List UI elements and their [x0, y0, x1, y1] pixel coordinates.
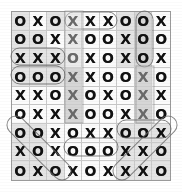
- grid-cell-r6-c5[interactable]: O: [82, 105, 100, 124]
- grid-cell-r5-c2[interactable]: X: [30, 87, 48, 106]
- grid-cell-r5-c9[interactable]: X: [152, 87, 170, 106]
- grid-cell-r6-c2[interactable]: X: [30, 105, 48, 124]
- grid-cell-r2-c1[interactable]: O: [12, 31, 30, 50]
- grid-cell-r4-c7[interactable]: O: [117, 68, 135, 87]
- grid-cell-r3-c5[interactable]: X: [82, 49, 100, 68]
- grid-cell-r6-c7[interactable]: X: [117, 105, 135, 124]
- grid-cell-r1-c6[interactable]: X: [100, 12, 118, 31]
- grid-cell-r7-c6[interactable]: X: [100, 124, 118, 143]
- grid-cell-r3-c7[interactable]: X: [117, 49, 135, 68]
- puzzle-grid-container[interactable]: OXOXXXOOXOOXXOOXOOXXXOXOXOXOOOXXOOXOXXOX…: [11, 11, 171, 181]
- grid-cell-r6-c4[interactable]: X: [65, 105, 83, 124]
- grid-cell-r9-c6[interactable]: X: [100, 161, 118, 180]
- grid-cell-r9-c9[interactable]: O: [152, 161, 170, 180]
- grid-cell-r6-c9[interactable]: O: [152, 105, 170, 124]
- grid-cell-r1-c5[interactable]: X: [82, 12, 100, 31]
- grid-cell-r6-c8[interactable]: X: [135, 105, 153, 124]
- grid-cell-r1-c8[interactable]: O: [135, 12, 153, 31]
- grid-cell-r8-c3[interactable]: X: [47, 143, 65, 162]
- grid-cell-r3-c6[interactable]: O: [100, 49, 118, 68]
- grid-cell-r9-c7[interactable]: X: [117, 161, 135, 180]
- grid-cell-r2-c5[interactable]: O: [82, 31, 100, 50]
- grid-cell-r8-c5[interactable]: O: [82, 143, 100, 162]
- grid-cell-r9-c2[interactable]: X: [30, 161, 48, 180]
- grid-cell-r8-c4[interactable]: O: [65, 143, 83, 162]
- grid-cell-r7-c5[interactable]: X: [82, 124, 100, 143]
- grid-cell-r4-c2[interactable]: O: [30, 68, 48, 87]
- grid-cell-r1-c1[interactable]: O: [12, 12, 30, 31]
- grid-cell-r1-c4[interactable]: X: [65, 12, 83, 31]
- cell-symbol: O: [67, 144, 79, 158]
- grid-cell-r4-c8[interactable]: X: [135, 68, 153, 87]
- grid-cell-r1-c7[interactable]: O: [117, 12, 135, 31]
- grid-cell-r3-c8[interactable]: O: [135, 49, 153, 68]
- grid-cell-r2-c2[interactable]: O: [30, 31, 48, 50]
- grid-cell-r1-c2[interactable]: X: [30, 12, 48, 31]
- grid-cell-r3-c3[interactable]: X: [47, 49, 65, 68]
- grid-cell-r2-c6[interactable]: O: [100, 31, 118, 50]
- grid-cell-r4-c4[interactable]: X: [65, 68, 83, 87]
- grid-cell-r8-c7[interactable]: X: [117, 143, 135, 162]
- grid-cell-r6-c3[interactable]: X: [47, 105, 65, 124]
- grid-cell-r4-c6[interactable]: O: [100, 68, 118, 87]
- grid-cell-r6-c1[interactable]: O: [12, 105, 30, 124]
- grid-cell-r8-c2[interactable]: O: [30, 143, 48, 162]
- grid-cell-r7-c3[interactable]: X: [47, 124, 65, 143]
- grid-cell-r2-c7[interactable]: X: [117, 31, 135, 50]
- cell-symbol: X: [68, 164, 79, 178]
- grid-cell-r9-c1[interactable]: O: [12, 161, 30, 180]
- cell-symbol: X: [50, 32, 61, 46]
- grid-cell-r5-c8[interactable]: X: [135, 87, 153, 106]
- grid-cell-r8-c6[interactable]: O: [100, 143, 118, 162]
- cell-symbol: O: [32, 32, 44, 46]
- grid-cell-r5-c5[interactable]: O: [82, 87, 100, 106]
- cell-symbol: X: [68, 88, 79, 102]
- cell-symbol: O: [137, 32, 149, 46]
- grid-cell-r9-c8[interactable]: X: [135, 161, 153, 180]
- grid-cell-r4-c3[interactable]: O: [47, 68, 65, 87]
- grid-cell-r3-c4[interactable]: O: [65, 49, 83, 68]
- grid-cell-r7-c7[interactable]: O: [117, 124, 135, 143]
- grid-cell-r5-c7[interactable]: O: [117, 87, 135, 106]
- grid-cell-r4-c1[interactable]: O: [12, 68, 30, 87]
- grid-cell-r2-c8[interactable]: O: [135, 31, 153, 50]
- grid-cell-r9-c3[interactable]: O: [47, 161, 65, 180]
- grid-cell-r4-c9[interactable]: O: [152, 68, 170, 87]
- cell-symbol: O: [14, 32, 26, 46]
- grid-cell-r7-c1[interactable]: O: [12, 124, 30, 143]
- grid-cell-r1-c9[interactable]: X: [152, 12, 170, 31]
- cell-symbol: O: [102, 107, 114, 121]
- grid-cell-r5-c3[interactable]: O: [47, 87, 65, 106]
- grid-cell-r2-c3[interactable]: X: [47, 31, 65, 50]
- grid-cell-r2-c9[interactable]: O: [152, 31, 170, 50]
- cell-symbol: X: [50, 107, 61, 121]
- cell-symbol: X: [85, 51, 96, 65]
- cell-symbol: O: [120, 88, 132, 102]
- grid-cell-r4-c5[interactable]: X: [82, 68, 100, 87]
- grid-cell-r3-c9[interactable]: X: [152, 49, 170, 68]
- grid-cell-r8-c8[interactable]: X: [135, 143, 153, 162]
- grid-cell-r3-c2[interactable]: X: [30, 49, 48, 68]
- cell-symbol: O: [85, 88, 97, 102]
- grid-cell-r9-c5[interactable]: O: [82, 161, 100, 180]
- cell-symbol: X: [138, 88, 149, 102]
- grid-cell-r1-c3[interactable]: O: [47, 12, 65, 31]
- grid-cell-r8-c1[interactable]: X: [12, 143, 30, 162]
- cell-symbol: O: [155, 70, 167, 84]
- grid-cell-r5-c4[interactable]: X: [65, 87, 83, 106]
- grid-cell-r8-c9[interactable]: O: [152, 143, 170, 162]
- grid-cell-r3-c1[interactable]: X: [12, 49, 30, 68]
- grid-cell-r6-c6[interactable]: O: [100, 105, 118, 124]
- grid-cell-r5-c6[interactable]: X: [100, 87, 118, 106]
- cell-symbol: O: [14, 126, 26, 140]
- cell-symbol: X: [120, 32, 131, 46]
- grid-cell-r7-c9[interactable]: X: [152, 124, 170, 143]
- grid-cell-r7-c8[interactable]: O: [135, 124, 153, 143]
- grid-cell-r7-c2[interactable]: O: [30, 124, 48, 143]
- grid-cell-r5-c1[interactable]: X: [12, 87, 30, 106]
- cell-symbol: O: [49, 88, 61, 102]
- grid-cell-r7-c4[interactable]: O: [65, 124, 83, 143]
- puzzle-grid[interactable]: OXOXXXOOXOOXXOOXOOXXXOXOXOXOOOXXOOXOXXOX…: [12, 12, 170, 180]
- grid-cell-r9-c4[interactable]: X: [65, 161, 83, 180]
- grid-cell-r2-c4[interactable]: X: [65, 31, 83, 50]
